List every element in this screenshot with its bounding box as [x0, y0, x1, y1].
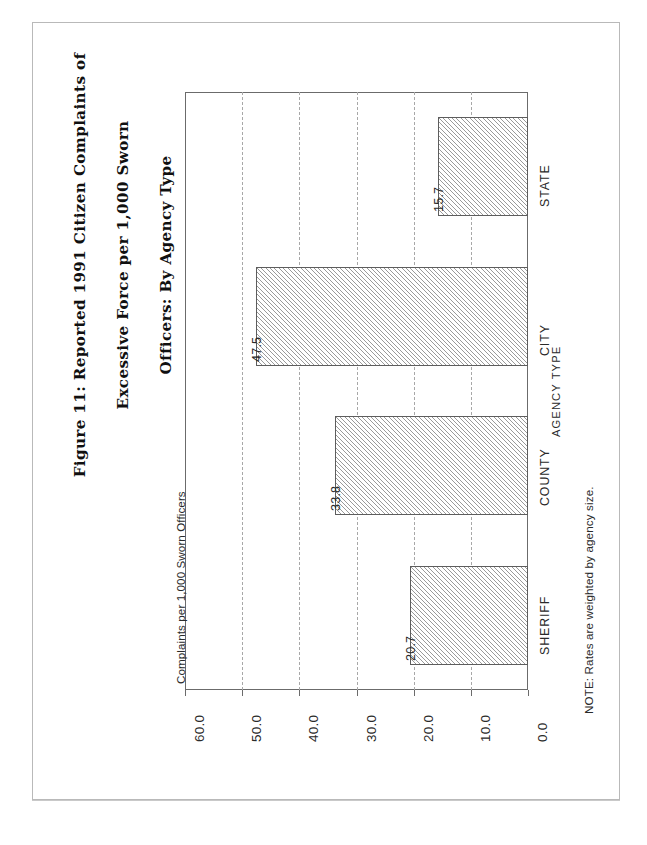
tick-label: 40.0 [306, 715, 321, 742]
bar-chart [185, 92, 528, 690]
tick-mark [528, 690, 529, 696]
tick-label: 30.0 [364, 715, 379, 742]
bar-state [438, 117, 528, 216]
category-label-sheriff: SHERIFF [538, 596, 552, 655]
figure-title-line-3: Officers: By Agency Type [156, 30, 178, 500]
figure-title-line-1: Figure 11: Reported 1991 Citizen Complai… [70, 30, 92, 500]
scanned-page: Figure 11: Reported 1991 Citizen Complai… [0, 0, 647, 845]
bar-value-label: 20.7 [404, 635, 418, 660]
category-label-county: COUNTY [538, 448, 552, 506]
bar-city [256, 267, 528, 366]
bar-value-label: 33.8 [329, 486, 343, 511]
tick-label: 0.0 [535, 722, 550, 742]
bar-value-label: 47.5 [250, 336, 264, 361]
gridline [299, 92, 300, 690]
tick-label: 60.0 [192, 715, 207, 742]
bar-county [335, 416, 528, 515]
figure-note: NOTE: Rates are weighted by agency size. [582, 486, 595, 714]
gridline [357, 92, 358, 690]
category-label-state: STATE [538, 164, 552, 207]
tick-mark [471, 690, 472, 696]
tick-label: 50.0 [249, 715, 264, 742]
value-axis-title: Complaints per 1,000 Sworn Officers [174, 491, 187, 684]
tick-label: 10.0 [478, 715, 493, 742]
category-axis-title: AGENCY TYPE [550, 346, 562, 437]
tick-mark [299, 690, 300, 696]
gridline [242, 92, 243, 690]
figure-title-line-2: Excessive Force per 1,000 Sworn [113, 30, 135, 500]
figure-title: Figure 11: Reported 1991 Citizen Complai… [48, 30, 144, 500]
tick-mark [242, 690, 243, 696]
tick-mark [185, 690, 186, 696]
tick-mark [357, 690, 358, 696]
bar-sheriff [410, 566, 528, 665]
bar-value-label: 15.7 [432, 187, 446, 212]
tick-mark [414, 690, 415, 696]
tick-label: 20.0 [421, 715, 436, 742]
